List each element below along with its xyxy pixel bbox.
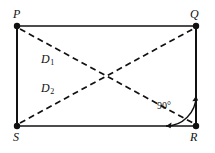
figure-canvas [0, 0, 215, 153]
vertex-dot-r [193, 123, 199, 129]
diagonal-label-d1-subscript: 1 [50, 58, 54, 67]
angle-label-90: 90° [157, 101, 171, 111]
diagonal-label-d2-subscript: 2 [50, 87, 54, 96]
diagonal-label-d2: D2 [41, 82, 54, 94]
vertex-dot-p [14, 23, 20, 29]
vertex-dot-q [193, 23, 199, 29]
geometry-figure: P Q R S D1 D2 90° [0, 0, 215, 153]
vertex-label-s: S [13, 131, 19, 143]
vertex-label-r: R [190, 131, 197, 143]
diagonal-label-d1-base: D [41, 52, 50, 66]
vertex-dot-s [14, 123, 20, 129]
diagonal-label-d2-base: D [41, 81, 50, 95]
vertex-label-p: P [13, 8, 20, 20]
diagonal-label-d1: D1 [41, 53, 54, 65]
vertex-label-q: Q [190, 8, 199, 20]
